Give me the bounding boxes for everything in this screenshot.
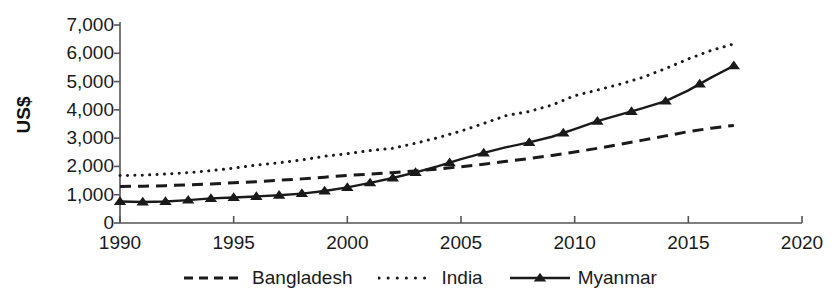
data-point-marker — [694, 79, 706, 88]
data-marker-group — [114, 61, 740, 206]
legend-label: Myanmar — [578, 267, 657, 289]
legend-item-india[interactable]: India — [378, 267, 482, 289]
data-series-group — [120, 44, 734, 202]
legend-label: Bangladesh — [252, 267, 352, 289]
plot-area — [0, 0, 840, 301]
legend-item-bangladesh[interactable]: Bangladesh — [183, 267, 352, 289]
chart-figure: US$ 01,0002,0003,0004,0005,0006,0007,000… — [0, 0, 840, 301]
chart-legend: BangladeshIndiaMyanmar — [0, 262, 840, 294]
legend-swatch-dashed — [183, 270, 245, 286]
legend-item-myanmar[interactable]: Myanmar — [509, 267, 657, 289]
legend-swatch-dotted — [378, 270, 434, 286]
series-line-bangladesh — [120, 125, 734, 186]
series-line-myanmar — [120, 66, 734, 202]
data-point-marker — [728, 61, 740, 70]
axis-tick-marks — [114, 25, 802, 223]
legend-label: India — [441, 267, 482, 289]
legend-swatch-solid — [509, 270, 571, 286]
axis-lines — [120, 22, 802, 223]
